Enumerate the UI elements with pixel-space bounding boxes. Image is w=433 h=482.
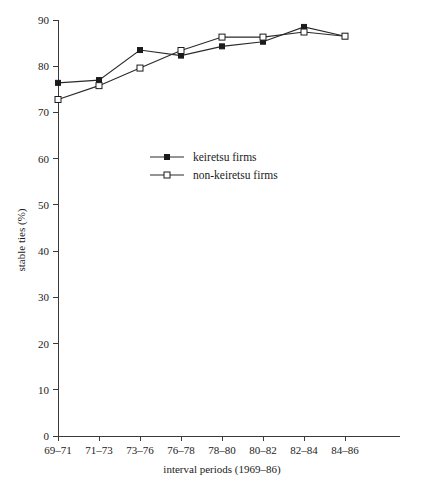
x-axis: 69–7171–7373–7676–7878–8080–8282–8484–86 bbox=[44, 436, 400, 456]
data-point bbox=[220, 44, 225, 49]
data-point bbox=[56, 80, 61, 85]
y-tick-label: 90 bbox=[38, 14, 50, 26]
data-point bbox=[97, 78, 102, 83]
x-tick-label: 84–86 bbox=[331, 444, 359, 456]
series-2 bbox=[55, 29, 348, 102]
x-tick-label: 82–84 bbox=[290, 444, 318, 456]
legend-marker bbox=[165, 155, 170, 160]
data-point bbox=[138, 48, 143, 53]
legend-label: non-keiretsu firms bbox=[193, 169, 278, 181]
data-point bbox=[178, 48, 184, 54]
x-tick-label: 71–73 bbox=[85, 444, 113, 456]
y-tick-label: 30 bbox=[38, 291, 50, 303]
y-tick-label: 50 bbox=[38, 199, 50, 211]
legend-label: keiretsu firms bbox=[193, 151, 257, 163]
x-tick-label: 78–80 bbox=[208, 444, 236, 456]
data-point bbox=[342, 33, 348, 39]
y-tick-label: 70 bbox=[38, 106, 50, 118]
line-chart: 0102030405060708090 69–7171–7373–7676–78… bbox=[0, 0, 433, 482]
chart-container: 0102030405060708090 69–7171–7373–7676–78… bbox=[0, 0, 433, 482]
x-tick-label: 73–76 bbox=[126, 444, 154, 456]
y-axis-title: stable ties (%) bbox=[15, 208, 28, 271]
x-tick-label: 80–82 bbox=[249, 444, 277, 456]
y-tick-label: 40 bbox=[38, 245, 50, 257]
plot-area bbox=[55, 24, 348, 102]
data-point bbox=[219, 34, 225, 40]
y-tick-label: 20 bbox=[38, 338, 50, 350]
data-point bbox=[260, 34, 266, 40]
data-point bbox=[55, 97, 61, 103]
legend-marker bbox=[164, 172, 170, 178]
data-point bbox=[137, 65, 143, 71]
x-axis-title: interval periods (1969–86) bbox=[163, 463, 281, 476]
series-line bbox=[58, 32, 345, 99]
y-axis-ticks: 0102030405060708090 bbox=[38, 14, 58, 442]
y-tick-label: 0 bbox=[44, 430, 50, 442]
x-tick-label: 69–71 bbox=[44, 444, 72, 456]
y-tick-label: 60 bbox=[38, 153, 50, 165]
x-axis-ticks: 69–7171–7373–7676–7878–8080–8282–8484–86 bbox=[44, 436, 359, 456]
data-point bbox=[301, 29, 307, 35]
chart-legend: keiretsu firmsnon-keiretsu firms bbox=[150, 151, 278, 181]
y-tick-label: 10 bbox=[38, 384, 50, 396]
data-point bbox=[96, 83, 102, 89]
y-axis: 0102030405060708090 bbox=[38, 14, 58, 442]
y-tick-label: 80 bbox=[38, 60, 50, 72]
x-tick-label: 76–78 bbox=[167, 444, 195, 456]
